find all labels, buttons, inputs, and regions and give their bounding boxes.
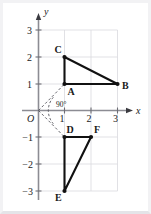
- y-tick-label-neg1: −1: [22, 132, 33, 143]
- figure-page: y x O 1 2 3 1 2 3 −1 −2 −3 90°: [0, 0, 151, 214]
- point-f-marker: [89, 135, 93, 139]
- point-label-b: B: [122, 80, 129, 91]
- x-axis-arrow: [126, 108, 133, 113]
- point-b-marker: [115, 82, 119, 86]
- angle-label-90: 90°: [56, 100, 67, 109]
- coordinate-plane-figure: y x O 1 2 3 1 2 3 −1 −2 −3 90°: [0, 0, 151, 214]
- y-axis-label: y: [43, 6, 49, 17]
- y-tick-label-1: 1: [27, 79, 32, 90]
- point-label-e: E: [55, 192, 62, 203]
- x-axis-label: x: [135, 105, 141, 116]
- point-label-f: F: [94, 124, 100, 135]
- y-tick-label-2: 2: [27, 52, 32, 63]
- point-d-marker: [62, 135, 66, 139]
- x-tick-label-2: 2: [87, 113, 92, 124]
- x-tick-labels: 1 2 3: [60, 113, 119, 124]
- y-tick-label-3: 3: [27, 25, 32, 36]
- point-label-c: C: [55, 44, 62, 55]
- point-label-a: A: [68, 86, 76, 97]
- origin-label: O: [27, 113, 34, 124]
- point-a-marker: [62, 82, 66, 86]
- point-label-d: D: [67, 124, 74, 135]
- x-tick-label-1: 1: [60, 113, 65, 124]
- y-tick-label-neg3: −3: [22, 186, 33, 197]
- point-c-marker: [62, 55, 66, 59]
- x-tick-label-3: 3: [113, 113, 118, 124]
- y-tick-label-neg2: −2: [22, 159, 33, 170]
- y-axis-arrow: [36, 13, 41, 20]
- point-e-marker: [62, 189, 66, 193]
- axes: [22, 13, 133, 200]
